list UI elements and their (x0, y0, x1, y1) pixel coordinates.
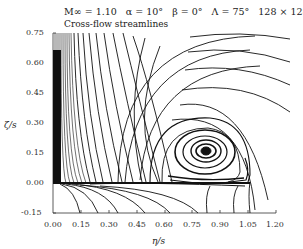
dense-streamline-bundle (53, 33, 86, 183)
streamline-plot (0, 0, 303, 249)
lower-streamlines (60, 182, 250, 213)
